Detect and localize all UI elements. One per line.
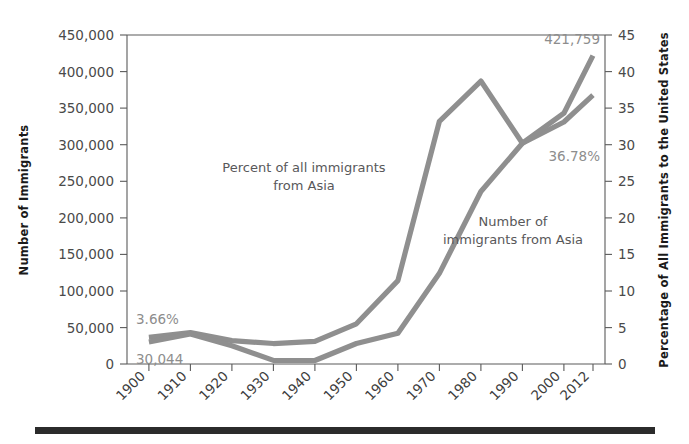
left-tick-label: 0 (105, 356, 114, 372)
chart-figure: 450,000 400,000 350,000 300,000 250,000 … (0, 0, 689, 444)
x-tick-label: 1940 (279, 368, 315, 404)
right-tick-label: 5 (618, 320, 627, 336)
percent-annotation: Percent of all immigrants from Asia (222, 160, 385, 193)
x-tick-label: 2000 (528, 368, 564, 404)
data-label-end-percent: 36.78% (549, 148, 601, 164)
chart-svg: 450,000 400,000 350,000 300,000 250,000 … (0, 0, 689, 444)
left-axis-ticks (120, 35, 127, 364)
right-tick-label: 45 (618, 27, 635, 43)
right-tick-label: 25 (618, 173, 635, 189)
left-tick-label: 300,000 (58, 137, 114, 153)
x-tick-label: 1950 (320, 368, 356, 404)
right-tick-label: 10 (618, 283, 635, 299)
x-axis-tick-labels: 1900 1910 1920 1930 1940 1950 1960 1970 … (113, 368, 593, 404)
x-tick-label: 1900 (113, 368, 149, 404)
right-axis-title: Percentage of All Immigrants to the Unit… (657, 32, 671, 367)
x-tick-label: 1910 (154, 368, 190, 404)
right-tick-label: 40 (618, 64, 635, 80)
left-tick-label: 350,000 (58, 100, 114, 116)
percent-annotation-line1: Percent of all immigrants (222, 160, 385, 175)
left-axis-tick-labels: 450,000 400,000 350,000 300,000 250,000 … (58, 27, 114, 372)
data-label-start-percent: 3.66% (136, 311, 179, 327)
left-tick-label: 150,000 (58, 246, 114, 262)
left-axis-title: Number of Immigrants (17, 125, 31, 276)
bottom-rule (35, 427, 655, 434)
right-tick-label: 15 (618, 246, 635, 262)
x-tick-label: 1990 (486, 368, 522, 404)
right-axis-ticks (605, 35, 612, 364)
x-tick-label: 1960 (362, 368, 398, 404)
right-tick-label: 0 (618, 356, 627, 372)
left-tick-label: 200,000 (58, 210, 114, 226)
series-line-percent-of-all-immigrants (149, 81, 593, 343)
x-tick-label: 1920 (196, 368, 232, 404)
data-label-start-number: 30,044 (136, 351, 183, 367)
x-axis-ticks (149, 364, 593, 371)
x-tick-label: 1980 (445, 368, 481, 404)
left-tick-label: 50,000 (67, 320, 114, 336)
percent-annotation-line2: from Asia (273, 178, 335, 193)
left-tick-label: 450,000 (58, 27, 114, 43)
x-tick-label: 2012 (557, 368, 593, 404)
number-annotation-line1: Number of (479, 214, 548, 229)
number-annotation-line2: immigrants from Asia (443, 232, 583, 247)
right-axis-tick-labels: 45 40 35 30 25 20 15 10 5 0 (618, 27, 635, 372)
right-tick-label: 20 (618, 210, 635, 226)
right-tick-label: 30 (618, 137, 635, 153)
x-tick-label: 1930 (237, 368, 273, 404)
right-tick-label: 35 (618, 100, 635, 116)
data-label-end-number: 421,759 (544, 31, 600, 47)
left-tick-label: 250,000 (58, 173, 114, 189)
left-tick-label: 400,000 (58, 64, 114, 80)
x-tick-label: 1970 (403, 368, 439, 404)
series-line-number-of-immigrants (149, 56, 593, 361)
left-tick-label: 100,000 (58, 283, 114, 299)
